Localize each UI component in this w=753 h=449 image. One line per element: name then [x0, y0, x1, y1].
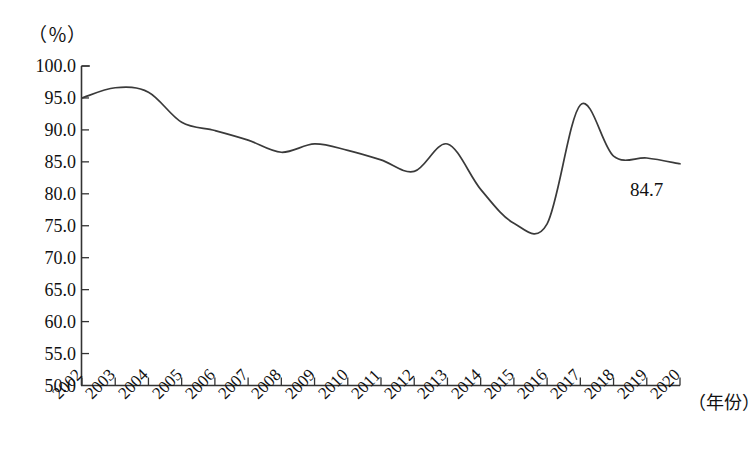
x-axis-tick-label: 2019 — [614, 365, 650, 401]
x-axis-tick-label: 2016 — [514, 365, 550, 401]
x-axis-tick-label: 2011 — [348, 366, 384, 402]
x-axis-tick-label: 2018 — [581, 365, 617, 401]
x-axis-tick-label: 2007 — [215, 365, 251, 401]
end-value-annotation: 84.7 — [630, 179, 663, 201]
x-axis-tick-label: 2009 — [282, 365, 318, 401]
x-axis-tick-label: 2017 — [547, 365, 583, 401]
x-axis-title: （年份） — [688, 388, 753, 414]
x-axis-tick-label: 2003 — [82, 365, 118, 401]
x-axis-tick-label: 2015 — [481, 365, 517, 401]
x-axis-tick-label: 2002 — [49, 365, 85, 401]
x-axis-tick-label: 2013 — [414, 365, 450, 401]
x-axis-tick-label: 2020 — [647, 365, 683, 401]
x-axis-tick-label: 2006 — [182, 365, 218, 401]
x-axis-tick-label: 2005 — [149, 365, 185, 401]
x-axis-tick-label: 2004 — [115, 365, 151, 401]
x-axis-tick-label: 2008 — [248, 365, 284, 401]
x-axis-tick-label: 2012 — [381, 365, 417, 401]
x-axis-tick-label: 2010 — [315, 365, 351, 401]
x-axis-tick-label: 2014 — [448, 365, 484, 401]
